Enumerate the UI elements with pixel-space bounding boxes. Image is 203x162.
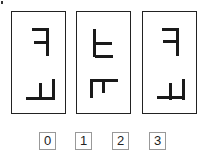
figure-panel-2 xyxy=(76,11,131,114)
corner-speck xyxy=(1,1,3,4)
figure-panel-3 xyxy=(142,11,197,114)
glyph-stroke xyxy=(39,83,42,100)
glyph-stroke xyxy=(34,41,47,44)
glyph-stroke xyxy=(95,55,113,58)
answer-option-2[interactable]: 2 xyxy=(112,132,129,150)
glyph-stroke xyxy=(102,79,105,93)
figure-panel-1 xyxy=(11,11,66,114)
glyph-stroke xyxy=(182,79,185,100)
answer-option-0[interactable]: 0 xyxy=(39,132,56,150)
glyph-stroke xyxy=(163,40,176,43)
answer-option-3[interactable]: 3 xyxy=(149,132,166,150)
answer-option-1[interactable]: 1 xyxy=(75,132,92,150)
glyph-stroke xyxy=(176,28,179,56)
glyph-stroke xyxy=(169,83,172,100)
glyph-stroke xyxy=(90,79,93,98)
glyph-stroke xyxy=(52,79,55,100)
glyph-stroke xyxy=(95,42,112,45)
